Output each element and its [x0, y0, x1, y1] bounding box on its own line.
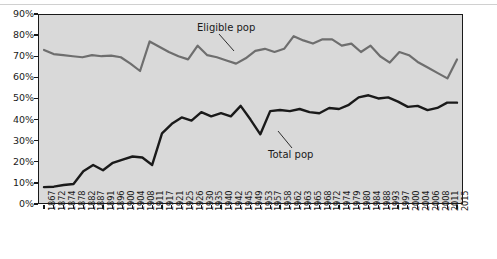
line-eligible-pop	[44, 36, 457, 78]
y-tick-mark	[34, 56, 38, 57]
series-label-total-pop: Total pop	[268, 149, 313, 160]
y-tick-mark	[34, 119, 38, 120]
y-tick-mark	[34, 203, 38, 204]
y-tick-mark	[34, 98, 38, 99]
y-tick-mark	[34, 13, 38, 14]
series-label-eligible-pop: Eligible pop	[197, 22, 255, 33]
line-total-pop	[44, 95, 457, 187]
y-tick-mark	[34, 161, 38, 162]
y-tick-mark	[34, 77, 38, 78]
y-tick-mark	[34, 182, 38, 183]
leader-line-total-pop	[278, 131, 292, 148]
leader-line-eligible-pop	[219, 34, 234, 51]
chart-page: 90%80%70%60%50%40%30%20%10%0% 1867187218…	[0, 0, 497, 259]
y-tick-mark	[34, 140, 38, 141]
y-tick-mark	[34, 34, 38, 35]
chart-lines-layer	[0, 0, 497, 259]
